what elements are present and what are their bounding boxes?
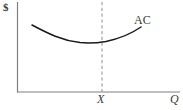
ac-curve	[32, 25, 141, 43]
ac-curve-label: AC	[134, 14, 151, 26]
average-cost-curve-figure: $ Q X AC	[0, 0, 183, 110]
plot-area	[0, 0, 183, 110]
y-axis-label: $	[3, 2, 9, 13]
x-axis-label: Q	[170, 93, 179, 105]
x-tick-label: X	[97, 93, 104, 105]
